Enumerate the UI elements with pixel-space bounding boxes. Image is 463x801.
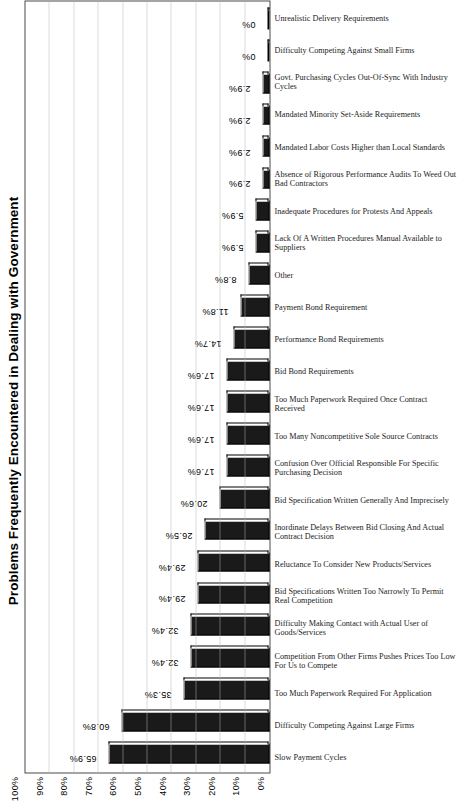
category-tick: Difficulty Competing Against Small Firms (270, 34, 463, 66)
bar: 2.9% (262, 137, 269, 157)
bar-value-label: 11.8% (202, 306, 228, 316)
axis-tick-label: 70% (83, 776, 93, 795)
bar: 0% (267, 9, 269, 29)
axis-tick-label: 30% (181, 776, 191, 795)
plot-area: 65.9%60.8%35.3%32.4%32.4%29.4%29.4%26.5%… (24, 0, 270, 773)
bar-value-label: 14.7% (194, 338, 221, 348)
bar: 32.4% (190, 615, 269, 635)
gridline (73, 1, 74, 772)
category-label: Too Many Noncompetitive Sole Source Cont… (274, 431, 459, 440)
bar-value-label: 32.4% (151, 657, 178, 667)
bar: 26.5% (204, 520, 269, 540)
category-tick: Other (270, 259, 463, 291)
category-label: Difficulty Making Contact with Actual Us… (274, 619, 459, 637)
bar-value-label: 26.5% (165, 530, 192, 540)
category-label: Performance Bond Requirements (274, 335, 459, 344)
category-label: Inordinate Delays Between Bid Closing An… (274, 523, 459, 541)
bar: 2.9% (262, 105, 269, 125)
bar-value-label: 5.9% (221, 210, 243, 220)
category-tick: Too Many Noncompetitive Sole Source Cont… (270, 420, 463, 452)
category-tick: Govt. Purchasing Cycles Out-Of-Sync With… (270, 66, 463, 98)
category-tick: Payment Bond Requirement (270, 291, 463, 323)
category-tick: Bid Bond Requirements (270, 355, 463, 387)
category-label: Too Much Paperwork Required Once Contrac… (274, 394, 459, 412)
bar-value-label: 17.6% (187, 370, 214, 380)
category-axis: Slow Payment CyclesDifficulty Competing … (270, 0, 463, 801)
bar: 17.6% (226, 456, 269, 476)
bar-value-label: 8.8% (214, 274, 236, 284)
bar: 17.6% (226, 424, 269, 444)
category-tick: Inordinate Delays Between Bid Closing An… (270, 516, 463, 548)
bar: 29.4% (197, 552, 269, 572)
gridline (97, 1, 98, 772)
bar: 32.4% (190, 647, 269, 667)
category-label: Mandated Labor Costs Higher than Local S… (274, 142, 459, 151)
bar: 2.9% (262, 169, 269, 189)
category-label: Slow Payment Cycles (274, 752, 459, 761)
value-axis: 0%10%20%30%40%50%60%70%80%90%100% (24, 773, 270, 799)
axis-tick-label: 100% (9, 776, 19, 801)
bar-value-label: 2.9% (228, 147, 250, 157)
category-tick: Too Much Paperwork Required For Applicat… (270, 677, 463, 709)
bar-value-label: 35.3% (144, 689, 171, 699)
gridline (244, 1, 245, 772)
gridline (170, 1, 171, 772)
category-tick: Bid Specification Written Generally And … (270, 484, 463, 516)
plot-row: 0%10%20%30%40%50%60%70%80%90%100% 65.9%6… (24, 0, 270, 801)
category-tick: Absence of Rigorous Performance Audits T… (270, 163, 463, 195)
bar-value-label: 17.6% (187, 402, 214, 412)
bar: 8.8% (248, 264, 269, 284)
category-label: Difficulty Competing Against Large Firms (274, 720, 459, 729)
bar: 5.9% (255, 232, 269, 252)
category-label: Competition From Other Firms Pushes Pric… (274, 651, 459, 669)
category-tick: Difficulty Making Contact with Actual Us… (270, 612, 463, 644)
gridline (146, 1, 147, 772)
category-label: Difficulty Competing Against Small Firms (274, 46, 459, 55)
category-label: Unrealistic Delivery Requirements (274, 13, 459, 22)
bar-value-label: 20.6% (180, 498, 207, 508)
category-label: Absence of Rigorous Performance Audits T… (274, 170, 459, 188)
axis-tick-label: 20% (206, 776, 216, 795)
category-label: Bid Specifications Written Too Narrowly … (274, 587, 459, 605)
axis-tick-label: 90% (34, 776, 44, 795)
bar: 17.6% (226, 360, 269, 380)
axis-tick-label: 60% (107, 776, 117, 795)
category-label: Reluctance To Consider New Products/Serv… (274, 560, 459, 569)
category-tick: Competition From Other Firms Pushes Pric… (270, 645, 463, 677)
chart-stage: Problems Frequently Encountered in Deali… (0, 0, 463, 801)
category-tick: Bid Specifications Written Too Narrowly … (270, 580, 463, 612)
axis-tick-label: 80% (58, 776, 68, 795)
category-label: Other (274, 270, 459, 279)
bar: 0% (267, 41, 269, 61)
category-tick: Mandated Minority Set-Aside Requirements (270, 98, 463, 130)
category-label: Govt. Purchasing Cycles Out-Of-Sync With… (274, 73, 459, 91)
category-tick: Slow Payment Cycles (270, 741, 463, 773)
category-label: Lack Of A Written Procedures Manual Avai… (274, 234, 459, 252)
category-tick: Mandated Labor Costs Higher than Local S… (270, 131, 463, 163)
gridline (48, 1, 49, 772)
bar-value-label: 2.9% (228, 178, 250, 188)
category-tick: Unrealistic Delivery Requirements (270, 2, 463, 34)
category-label: Payment Bond Requirement (274, 303, 459, 312)
axis-tick-label: 50% (132, 776, 142, 795)
category-label: Bid Bond Requirements (274, 367, 459, 376)
bar-value-label: 5.9% (221, 242, 243, 252)
bar-chart-figure: Problems Frequently Encountered in Deali… (0, 0, 463, 801)
bar-value-label: 2.9% (228, 83, 250, 93)
axis-tick-label: 0% (255, 776, 265, 790)
category-label: Too Much Paperwork Required For Applicat… (274, 688, 459, 697)
bar: 2.9% (262, 73, 269, 93)
axis-tick-label: 40% (157, 776, 167, 795)
bar-value-label: 32.4% (151, 625, 178, 635)
category-tick: Too Much Paperwork Required Once Contrac… (270, 388, 463, 420)
category-label: Bid Specification Written Generally And … (274, 495, 459, 504)
category-tick: Reluctance To Consider New Products/Serv… (270, 548, 463, 580)
bar: 5.9% (255, 200, 269, 220)
category-tick: Lack Of A Written Procedures Manual Avai… (270, 227, 463, 259)
gridline (219, 1, 220, 772)
gridline (195, 1, 196, 772)
category-label: Inadequate Procedures for Protests And A… (274, 206, 459, 215)
category-label: Confusion Over Official Responsible For … (274, 459, 459, 477)
bar-value-label: 60.8% (82, 721, 109, 731)
category-tick: Difficulty Competing Against Large Firms (270, 709, 463, 741)
